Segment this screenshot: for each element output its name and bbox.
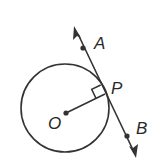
label-o: O [48,114,61,133]
geometry-diagram: A P O B [0,0,160,166]
point-b [124,133,129,138]
label-p: P [111,79,123,98]
label-a: A [93,34,105,53]
radius-op [66,94,105,113]
circle-o [21,64,109,152]
tangent-line-ab [78,34,133,150]
label-b: B [136,119,147,138]
point-a [80,45,85,50]
point-o [63,110,68,115]
